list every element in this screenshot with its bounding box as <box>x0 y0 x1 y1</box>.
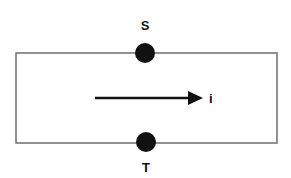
node-s-dot-icon <box>135 43 155 63</box>
circuit-diagram: S T i <box>0 0 291 178</box>
node-s-label: S <box>141 18 150 33</box>
current-label: i <box>209 91 213 106</box>
node-t-label: T <box>142 160 150 175</box>
node-t-dot-icon <box>136 132 156 152</box>
